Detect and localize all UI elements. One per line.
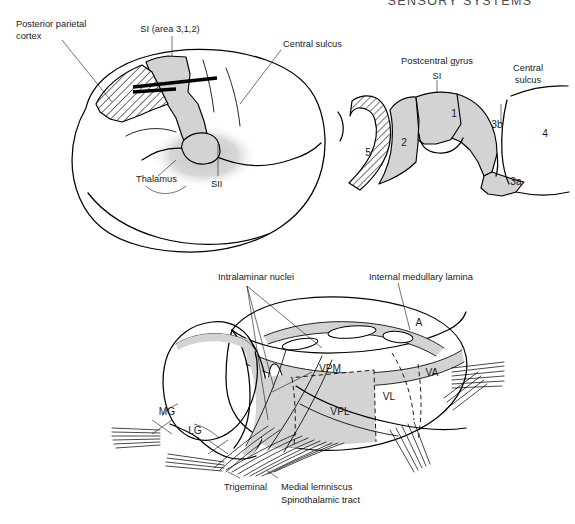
label-nucleus-mg: MG xyxy=(159,406,175,417)
running-head: SENSORY SYSTEMS xyxy=(388,0,533,8)
label-nucleus-a: A xyxy=(416,317,423,328)
label-area-4: 4 xyxy=(542,128,548,139)
label-area-1: 1 xyxy=(451,108,457,119)
label-sii: SII xyxy=(211,179,222,189)
label-thalamus: Thalamus xyxy=(136,174,177,184)
label-central-sulcus-brain: Central sulcus xyxy=(283,39,342,49)
label-trigeminal: Trigeminal xyxy=(224,482,267,492)
label-area-3a: 3a xyxy=(510,176,522,187)
label-nucleus-vpl: VPL xyxy=(330,406,350,417)
neuroanatomy-figure: SENSORY SYSTEMS Posterior parietal xyxy=(0,0,575,524)
label-si-gyrus: SI xyxy=(433,71,442,81)
label-area-5: 5 xyxy=(365,147,371,158)
label-nucleus-vl: VL xyxy=(383,391,396,402)
label-intralaminar-nuclei: Intralaminar nuclei xyxy=(218,272,294,282)
label-central-sulcus-gyrus-line2: sulcus xyxy=(515,75,542,85)
label-nucleus-vpm: VPM xyxy=(319,363,341,374)
label-si-area: SI (area 3,1,2) xyxy=(140,24,199,34)
figure-root: SENSORY SYSTEMS Posterior parietal xyxy=(0,0,575,524)
label-area-3b: 3b xyxy=(491,119,503,130)
label-area-2: 2 xyxy=(401,137,407,148)
label-spinothalamic-tract: Spinothalamic tract xyxy=(281,495,360,505)
label-posterior-parietal-cortex-line1: Posterior parietal xyxy=(16,19,86,29)
label-central-sulcus-gyrus-line1: Central xyxy=(513,63,543,73)
label-medial-lemniscus: Medial lemniscus xyxy=(281,482,353,492)
label-nucleus-va: VA xyxy=(426,367,439,378)
label-nucleus-lg: LG xyxy=(188,425,202,436)
label-internal-medullary-lamina: Internal medullary lamina xyxy=(369,272,474,282)
label-postcentral-gyrus: Postcentral gyrus xyxy=(401,56,473,66)
label-posterior-parietal-cortex-line2: cortex xyxy=(16,31,42,41)
